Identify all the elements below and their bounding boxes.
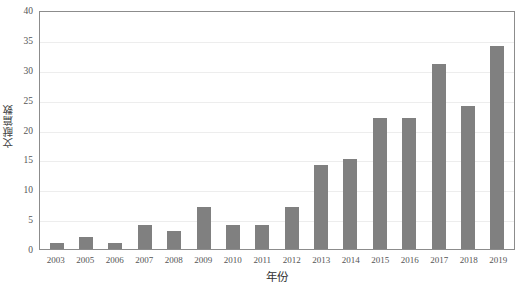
- bar-slot: [395, 12, 424, 249]
- bar: [490, 46, 504, 249]
- x-axis-tick: 2008: [159, 252, 189, 268]
- bar-slot: [160, 12, 189, 249]
- bar-chart: 文献篇数 0510152025303540 200320052006200720…: [0, 0, 522, 291]
- bar-slot: [277, 12, 306, 249]
- bar-series: [40, 12, 514, 249]
- x-axis-tick-labels: 2003200520062007200820092010201120122013…: [39, 252, 515, 268]
- bar-slot: [336, 12, 365, 249]
- bar-slot: [365, 12, 394, 249]
- y-axis-tick: 30: [24, 66, 34, 76]
- x-axis-tick: 2016: [395, 252, 425, 268]
- bar: [197, 207, 211, 249]
- x-axis-tick: 2009: [189, 252, 219, 268]
- bar: [314, 165, 328, 249]
- bar-slot: [101, 12, 130, 249]
- y-axis-title-text: 文献篇数: [3, 104, 14, 148]
- y-axis-tick: 15: [24, 155, 34, 165]
- x-axis-tick: 2005: [71, 252, 101, 268]
- plot-area: [39, 11, 515, 250]
- bar-slot: [71, 12, 100, 249]
- bar: [373, 118, 387, 249]
- bar: [402, 118, 416, 249]
- bar-slot: [248, 12, 277, 249]
- bar: [285, 207, 299, 249]
- bar: [167, 231, 181, 249]
- x-axis-tick: 2019: [484, 252, 514, 268]
- bar-slot: [424, 12, 453, 249]
- x-axis-title: 年份: [39, 268, 515, 284]
- bar-slot: [42, 12, 71, 249]
- bar-slot: [483, 12, 512, 249]
- y-axis-tick-labels: 0510152025303540: [16, 11, 36, 250]
- y-axis-tick: 0: [28, 245, 33, 255]
- y-axis-tick: 5: [28, 215, 33, 225]
- x-axis-tick: 2010: [218, 252, 248, 268]
- bar-slot: [218, 12, 247, 249]
- y-axis-tick: 20: [24, 126, 34, 136]
- bar: [432, 64, 446, 249]
- x-axis-tick: 2017: [425, 252, 455, 268]
- y-axis-tick: 40: [24, 6, 34, 16]
- x-axis-tick: 2015: [366, 252, 396, 268]
- bar: [108, 243, 122, 249]
- bar-slot: [130, 12, 159, 249]
- bar: [461, 106, 475, 249]
- bar: [343, 159, 357, 249]
- bar: [255, 225, 269, 249]
- y-axis-tick: 25: [24, 96, 34, 106]
- x-axis-tick: 2006: [100, 252, 130, 268]
- bar: [138, 225, 152, 249]
- bar-slot: [189, 12, 218, 249]
- bar-slot: [306, 12, 335, 249]
- y-axis-tick: 10: [24, 185, 34, 195]
- x-axis-tick: 2011: [248, 252, 278, 268]
- x-axis-tick: 2012: [277, 252, 307, 268]
- x-axis-tick: 2007: [130, 252, 160, 268]
- bar: [79, 237, 93, 249]
- x-axis-tick: 2014: [336, 252, 366, 268]
- y-axis-tick: 35: [24, 36, 34, 46]
- x-axis-tick: 2013: [307, 252, 337, 268]
- x-axis-tick: 2018: [454, 252, 484, 268]
- x-axis-tick: 2003: [41, 252, 71, 268]
- bar-slot: [453, 12, 482, 249]
- bar: [226, 225, 240, 249]
- bar: [50, 243, 64, 249]
